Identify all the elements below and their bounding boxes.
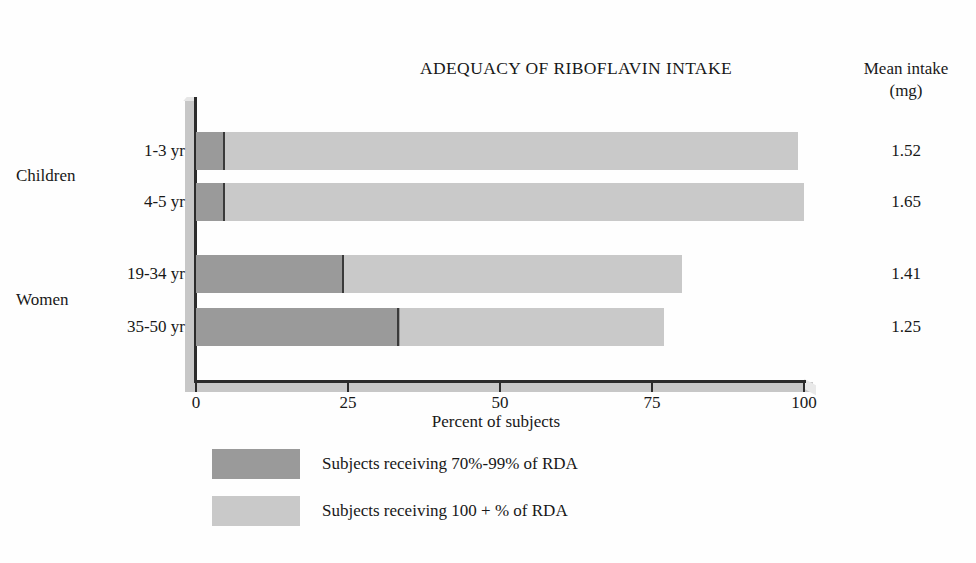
bar-segment-dark (196, 308, 400, 346)
mean-intake-value: 1.65 (836, 192, 976, 212)
legend-label-100-plus: Subjects receiving 100 + % of RDA (322, 501, 568, 521)
x-axis-tick (195, 382, 197, 392)
category-label-4-5-yr: 4-5 yr (40, 192, 185, 212)
x-axis-tick (803, 382, 805, 392)
category-label-19-34-yr: 19-34 yr (40, 264, 185, 284)
bar-segment-divider (342, 255, 344, 293)
bar-segment-dark (196, 255, 342, 293)
x-axis-tick (651, 382, 653, 392)
x-axis-title: Percent of subjects (196, 412, 796, 432)
group-label-children: Children (16, 166, 76, 186)
category-label-35-50-yr: 35-50 yr (40, 317, 185, 337)
legend-swatch-100-plus (212, 496, 300, 526)
group-label-women: Women (16, 290, 68, 310)
mean-intake-value: 1.25 (836, 317, 976, 337)
category-label-1-3-yr: 1-3 yr (40, 141, 185, 161)
bar-segment-divider (397, 308, 399, 346)
x-axis-tick-label: 25 (340, 393, 357, 413)
x-axis-tick-label: 100 (791, 393, 817, 413)
plot-area: 0 25 50 75 100 Percent of subjects 1-3 y… (0, 0, 976, 563)
x-axis-tick-label: 0 (192, 393, 201, 413)
bar-segment-divider (223, 132, 225, 170)
mean-intake-value: 1.41 (836, 264, 976, 284)
bar-segment-dark (196, 183, 223, 221)
x-axis-tick-label: 50 (492, 393, 509, 413)
bar-segment-dark (196, 132, 223, 170)
x-axis-tick (347, 382, 349, 392)
legend-label-70-99: Subjects receiving 70%-99% of RDA (322, 454, 578, 474)
legend-swatch-70-99 (212, 449, 300, 479)
chart-figure: ADEQUACY OF RIBOFLAVIN INTAKE Mean intak… (0, 0, 976, 563)
x-axis-tick-label: 75 (644, 393, 661, 413)
bar-segment-light (196, 132, 798, 170)
bar-segment-light (196, 183, 804, 221)
x-axis-tick (499, 382, 501, 392)
mean-intake-value: 1.52 (836, 141, 976, 161)
bar-segment-divider (223, 183, 225, 221)
